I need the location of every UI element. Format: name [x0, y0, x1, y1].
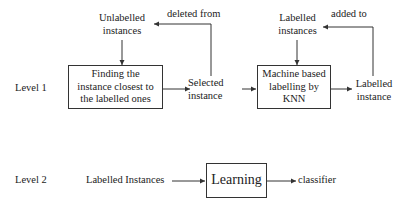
- finding-closest-instance-text: Finding the instance closest to the labe…: [77, 68, 153, 106]
- level-2-label: Level 2: [15, 174, 47, 187]
- learning-box: Learning: [206, 163, 267, 198]
- learning-text: Learning: [211, 174, 262, 187]
- knn-labelling-text: Machine based labelling by KNN: [262, 68, 325, 106]
- unlabelled-instances-label: Unlabelled instances: [92, 12, 152, 37]
- labelled-instances-input-label: Labelled Instances: [86, 174, 164, 187]
- labelled-instances-label: Labelled instances: [270, 12, 325, 37]
- selected-instance-label: Selected instance: [188, 77, 240, 102]
- added-to-label: added to: [331, 8, 367, 21]
- knn-labelling-box: Machine based labelling by KNN: [257, 65, 331, 109]
- finding-closest-instance-box: Finding the instance closest to the labe…: [68, 65, 163, 109]
- classifier-label: classifier: [298, 174, 336, 187]
- connector-lines: [0, 0, 404, 208]
- labelled-instance-label: Labelled instance: [352, 78, 396, 103]
- deleted-from-label: deleted from: [167, 8, 220, 21]
- level-1-label: Level 1: [15, 82, 47, 95]
